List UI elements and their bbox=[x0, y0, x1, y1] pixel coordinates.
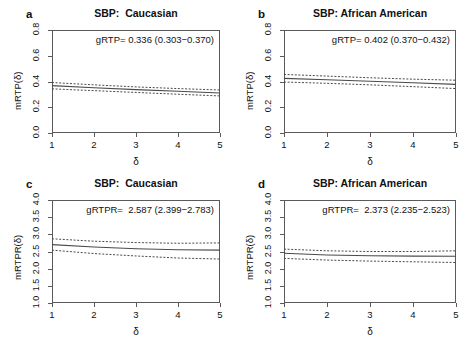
curve-d-ci-2 bbox=[284, 258, 456, 262]
curve-layer-a bbox=[0, 0, 236, 178]
panel-b: bSBP: African AmericangRTP= 0.402 (0.370… bbox=[236, 0, 472, 178]
curve-layer-d bbox=[236, 178, 472, 356]
curve-layer-c bbox=[0, 178, 236, 356]
curve-b-estimate bbox=[284, 78, 456, 84]
panel-c: cSBP: CaucasiangRTPR= 2.587 (2.399−2.783… bbox=[0, 178, 236, 356]
panel-d: dSBP: African AmericangRTPR= 2.373 (2.23… bbox=[236, 178, 472, 356]
panel-a: aSBP: CaucasiangRTP= 0.336 (0.303−0.370)… bbox=[0, 0, 236, 178]
curve-layer-b bbox=[236, 0, 472, 178]
curve-c-ci-2 bbox=[52, 250, 220, 259]
curve-c-ci-1 bbox=[52, 239, 220, 243]
figure-canvas: aSBP: CaucasiangRTP= 0.336 (0.303−0.370)… bbox=[0, 0, 472, 357]
curve-d-ci-1 bbox=[284, 249, 456, 251]
curve-c-estimate bbox=[52, 245, 220, 251]
curve-d-estimate bbox=[284, 253, 456, 256]
curve-a-ci-1 bbox=[52, 83, 220, 90]
